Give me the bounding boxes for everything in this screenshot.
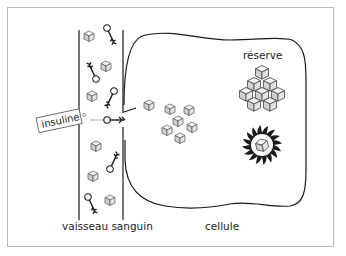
blood-vessel [79,30,123,220]
cell-label: cellule [205,220,239,232]
insulin-tag: insuline [36,108,88,133]
glucose-cube [84,31,94,42]
key-icon [106,151,121,173]
key-icon [85,61,100,83]
vessel-label: vaisseau sanguin [62,220,153,232]
energy-sun-icon [242,125,282,165]
insulin-keys [84,24,121,215]
glucose-cube [101,61,111,72]
reserve-label: réserve [243,49,282,61]
vessel-glucose [84,31,115,206]
cell-glucose [144,100,197,144]
key-icon [84,193,99,215]
glycogen-reserve [240,66,285,112]
key-icon [103,87,118,109]
glucose-cube [91,141,101,152]
glucose-channel [124,108,136,112]
glucose-cube [105,195,115,206]
insulin-diagram: insuline réserve vaisseau sanguin cellul… [0,0,346,256]
glucose-cube [87,91,97,102]
key-icon [103,24,118,46]
insulin-receptor [90,117,125,123]
glucose-cube [88,171,98,182]
